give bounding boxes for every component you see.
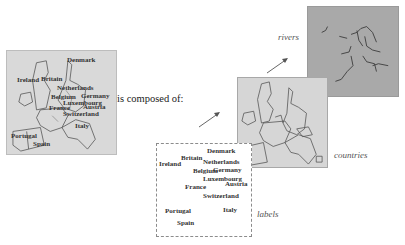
map-label-ireland: Ireland: [17, 77, 39, 84]
map-label-netherlands: Netherlands: [57, 85, 94, 92]
labels-layer: Denmark Britain Ireland Netherlands Belg…: [156, 143, 252, 237]
label-netherlands: Netherlands: [203, 159, 240, 166]
label-switzerland: Switzerland: [203, 193, 239, 200]
rivers-caption: rivers: [278, 32, 299, 42]
map-label-denmark: Denmark: [67, 57, 95, 64]
map-label-spain: Spain: [33, 141, 50, 148]
label-italy: Italy: [223, 207, 237, 214]
composed-of-text: is composed of:: [117, 93, 184, 104]
labels-caption: labels: [257, 209, 279, 219]
map-label-portugal: Portugal: [11, 133, 37, 140]
map-label-switzerland: Switzerland: [63, 111, 99, 118]
label-austria: Austria: [225, 181, 248, 188]
arrow-to-rivers-icon: [264, 54, 292, 76]
label-ireland: Ireland: [159, 161, 181, 168]
label-britain: Britain: [181, 155, 202, 162]
label-spain: Spain: [177, 220, 194, 227]
composite-map: Denmark Ireland Britain Netherlands Belg…: [6, 50, 117, 155]
map-label-britain: Britain: [41, 76, 62, 83]
label-france: France: [185, 184, 206, 191]
label-portugal: Portugal: [165, 208, 191, 215]
map-label-italy: Italy: [75, 123, 89, 130]
label-germany: Germany: [213, 167, 241, 174]
countries-caption: countries: [334, 150, 368, 160]
arrow-to-countries-icon: [196, 108, 224, 130]
label-denmark: Denmark: [207, 148, 235, 155]
